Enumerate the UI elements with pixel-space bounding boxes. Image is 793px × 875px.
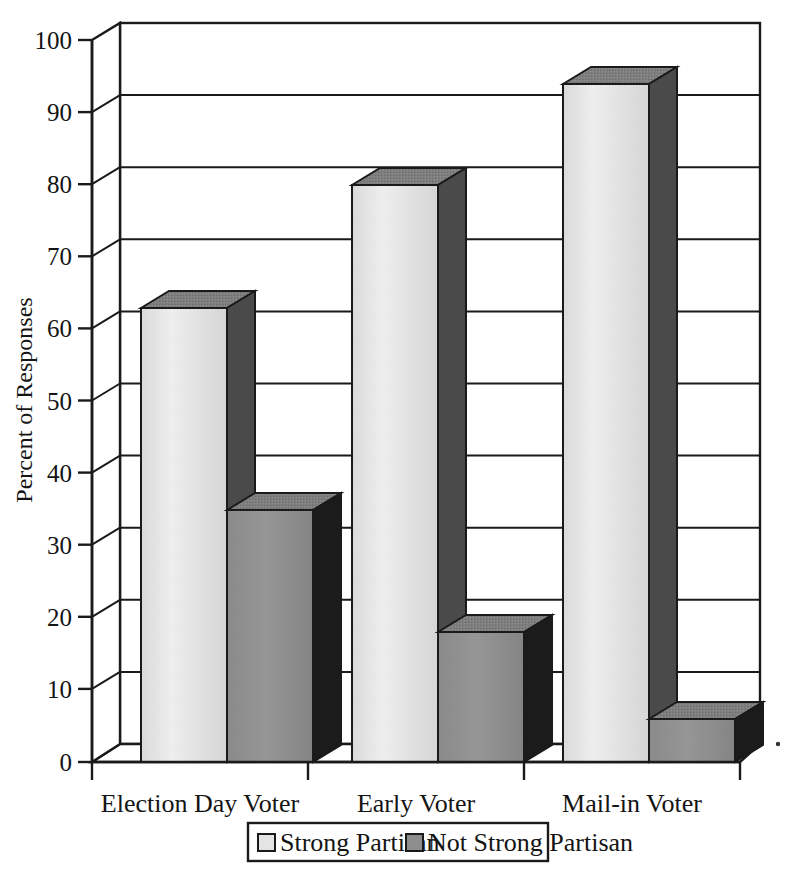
bar-side-face [313,493,341,762]
ytick-label-90: 90 [47,99,72,126]
y-axis-title: Percent of Responses [11,297,37,502]
bar-front-sheen [353,186,437,761]
bar-not-strong-partisan-election-day-voter [227,493,341,762]
ytick-label-20: 20 [47,604,72,631]
bar-side-face [524,615,552,762]
ytick-label-10: 10 [47,676,72,703]
ytick-label-40: 40 [47,460,72,487]
legend-item-not-strong-partisan: Not Strong Partisan [406,828,633,857]
chart-canvas: 100 90 80 70 60 50 40 30 20 10 0 Percent… [0,0,793,875]
ytick-label-70: 70 [47,243,72,270]
legend-swatch-light-gray-icon [258,834,275,851]
ytick-label-0: 0 [60,749,73,776]
bar-not-strong-partisan-early-voter [438,615,552,762]
bar-chart-figure: 100 90 80 70 60 50 40 30 20 10 0 Percent… [0,0,793,875]
bar-side-face [649,67,677,762]
ytick-label-60: 60 [47,315,72,342]
legend: Strong Partisan Not Strong Partisan [248,823,633,861]
ytick-label-50: 50 [47,388,72,415]
scan-artifact-speck [776,742,780,746]
bar-not-strong-partisan-mail-in-voter [649,702,763,762]
legend-swatch-dark-gray-icon [406,834,423,851]
ytick-label-80: 80 [47,171,72,198]
ytick-label-30: 30 [47,532,72,559]
bar-strong-partisan-mail-in-voter [563,67,677,762]
x-category-label-2: Mail-in Voter [562,789,702,818]
ytick-label-100: 100 [35,27,73,54]
bar-front-sheen [650,720,734,761]
bar-front-sheen [228,511,312,761]
x-category-label-1: Early Voter [357,789,476,818]
bar-front-sheen [142,309,226,761]
x-category-label-0: Election Day Voter [101,789,300,818]
bar-front-sheen [439,633,523,761]
bar-front-sheen [564,85,648,761]
legend-label-1: Not Strong Partisan [428,828,633,857]
